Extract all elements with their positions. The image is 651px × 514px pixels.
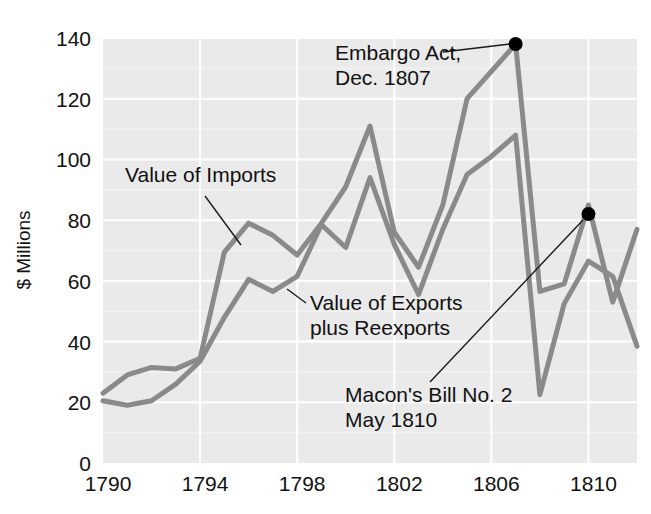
x-tick-label: 1798 [279, 472, 326, 495]
x-tick-label: 1810 [570, 472, 617, 495]
y-axis-title: $ Millions [13, 210, 34, 289]
trade-line-chart: Embargo Act,Dec. 1807Macon's Bill No. 2M… [0, 0, 651, 514]
annotation-text-line: May 1810 [345, 408, 437, 431]
x-tick-label: 1790 [85, 472, 132, 495]
chart-figure: Embargo Act,Dec. 1807Macon's Bill No. 2M… [0, 0, 651, 514]
x-tick-label: 1794 [182, 472, 229, 495]
annotation-text-line: Value of Imports [125, 163, 276, 186]
y-tick-label: 120 [56, 88, 91, 111]
y-tick-label: 20 [68, 391, 91, 414]
annotation-text-line: Dec. 1807 [335, 66, 431, 89]
annotation-text-line: Value of Exports [310, 291, 463, 314]
y-tick-label: 140 [56, 27, 91, 50]
y-tick-label: 100 [56, 148, 91, 171]
annotation-text-line: Embargo Act, [335, 41, 461, 64]
y-tick-label: 40 [68, 331, 91, 354]
x-tick-label: 1802 [376, 472, 423, 495]
annotation-text-line: Macon's Bill No. 2 [345, 383, 512, 406]
y-tick-label: 60 [68, 270, 91, 293]
y-tick-label: 80 [68, 209, 91, 232]
annotation-text-line: plus Reexports [310, 316, 450, 339]
x-tick-label: 1806 [473, 472, 520, 495]
annotation-marker-dot [581, 207, 595, 221]
annotation-marker-dot [509, 37, 523, 51]
